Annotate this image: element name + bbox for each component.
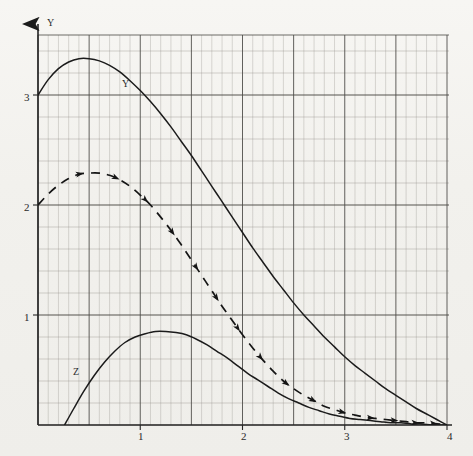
chart-page: Y 3 2 1 1 2 3 4 Y Z <box>0 0 473 456</box>
graph-plot <box>0 0 473 456</box>
y-tick-label-3: 3 <box>24 91 30 103</box>
x-tick-label-1: 1 <box>138 430 144 442</box>
y-tick-label-2: 2 <box>24 201 30 213</box>
y-tick-label-1: 1 <box>24 311 30 323</box>
axes-lines <box>38 24 452 425</box>
x-tick-label-2: 2 <box>241 430 247 442</box>
y-axis-name-label: Y <box>47 17 54 28</box>
series-Z <box>65 331 447 425</box>
curve-label-Y: Y <box>122 78 129 89</box>
grid-major-horizontal <box>38 35 449 315</box>
curve-label-Z: Z <box>73 366 79 377</box>
x-tick-label-4: 4 <box>447 430 453 442</box>
x-tick-label-3: 3 <box>344 430 350 442</box>
